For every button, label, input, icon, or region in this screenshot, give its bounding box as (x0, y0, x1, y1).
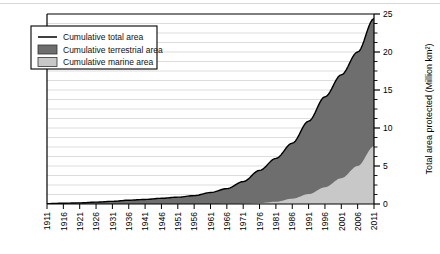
y-tick-label: 10 (383, 123, 393, 133)
x-tick-label: 1986 (287, 212, 297, 231)
legend-marker-swatch (38, 45, 57, 54)
y-axis: 0510152025 (374, 9, 393, 209)
x-tick-label: 1941 (140, 212, 150, 231)
y-tick-label: 25 (383, 9, 393, 19)
x-tick-label: 1946 (157, 212, 167, 231)
x-tick-label: 1961 (206, 212, 216, 231)
y-tick-label: 20 (383, 47, 393, 57)
x-tick-label: 1971 (238, 212, 248, 231)
x-tick-label: 1966 (222, 212, 232, 231)
x-axis: 1911191619211926193119361941194619511956… (42, 204, 379, 231)
x-tick-label: 1931 (108, 212, 118, 231)
x-tick-label: 2006 (353, 212, 363, 231)
x-tick-label: 1936 (124, 212, 134, 231)
legend-label: Cumulative total area (63, 32, 144, 42)
y-tick-label: 0 (383, 199, 388, 209)
x-tick-label: 1981 (271, 212, 281, 231)
x-tick-label: 1996 (320, 212, 330, 231)
y-tick-label: 5 (383, 161, 388, 171)
x-tick-label: 1911 (42, 212, 52, 231)
legend-label: Cumulative terrestrial area (63, 45, 163, 55)
y-tick-label: 15 (383, 85, 393, 95)
x-tick-label: 2011 (369, 212, 379, 231)
cumulative-protected-area-chart: 0510152025 19111916192119261931193619411… (0, 0, 440, 254)
y-axis-title: Total area protected (Million km²) (424, 43, 434, 174)
x-tick-label: 1926 (91, 212, 101, 231)
legend-marker-swatch (38, 58, 57, 67)
chart-screenshot: 0510152025 19111916192119261931193619411… (0, 0, 440, 254)
x-tick-label: 1991 (304, 212, 314, 231)
legend-label: Cumulative marine area (63, 57, 154, 67)
x-tick-label: 1976 (255, 212, 265, 231)
x-tick-label: 1921 (75, 212, 85, 231)
x-tick-label: 1951 (173, 212, 183, 231)
chart-legend: Cumulative total areaCumulative terrestr… (31, 26, 163, 69)
x-tick-label: 2001 (337, 212, 347, 231)
x-tick-label: 1956 (189, 212, 199, 231)
x-tick-label: 1916 (59, 212, 69, 231)
